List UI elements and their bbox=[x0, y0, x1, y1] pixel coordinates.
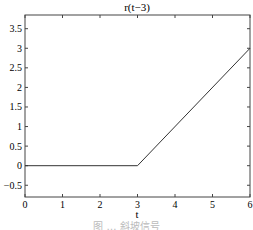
y-tick-label: 3 bbox=[17, 43, 22, 54]
y-tick-label: 2 bbox=[17, 82, 22, 93]
chart-title: r(t−3) bbox=[124, 1, 150, 14]
x-axis: 0123456 bbox=[23, 15, 253, 210]
x-tick-label: 5 bbox=[210, 199, 215, 210]
y-tick-label: 0 bbox=[17, 160, 22, 171]
figure-caption: 图 … 斜坡信号 bbox=[0, 218, 253, 230]
x-tick-label: 2 bbox=[98, 199, 103, 210]
y-tick-label: 1.5 bbox=[10, 101, 23, 112]
x-tick-label: 4 bbox=[173, 199, 178, 210]
y-tick-label: 3.5 bbox=[10, 23, 23, 34]
y-tick-label: 1 bbox=[17, 121, 22, 132]
y-tick-label: 0.5 bbox=[10, 141, 23, 152]
x-tick-label: 0 bbox=[23, 199, 28, 210]
x-tick-label: 1 bbox=[60, 199, 65, 210]
y-tick-label: −0.5 bbox=[4, 180, 22, 191]
chart: −0.500.511.522.533.5 0123456 r(t−3) t bbox=[0, 0, 253, 230]
plot-frame bbox=[25, 15, 250, 197]
x-tick-label: 6 bbox=[248, 199, 253, 210]
ramp-line bbox=[25, 48, 250, 165]
y-tick-label: 2.5 bbox=[10, 62, 23, 73]
